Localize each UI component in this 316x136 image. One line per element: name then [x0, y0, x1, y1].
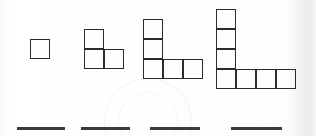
figure-3-grid — [143, 19, 203, 79]
unit-square — [216, 69, 236, 89]
unit-square — [236, 69, 256, 89]
figure-1-grid — [30, 39, 50, 59]
unit-square — [143, 59, 163, 79]
answer-line-3[interactable] — [150, 127, 200, 130]
unit-square — [216, 49, 236, 69]
unit-square — [216, 9, 236, 29]
unit-square — [276, 69, 296, 89]
unit-square — [256, 69, 276, 89]
unit-square — [84, 29, 104, 49]
figure-4 — [216, 9, 296, 89]
unit-square — [30, 39, 50, 59]
unit-square — [163, 59, 183, 79]
answer-line-4[interactable] — [231, 127, 282, 130]
answer-line-1[interactable] — [17, 127, 65, 130]
figure-1 — [30, 39, 50, 59]
unit-square — [143, 19, 163, 39]
unit-square — [216, 29, 236, 49]
worksheet-page — [0, 0, 316, 136]
answer-line-2[interactable] — [81, 127, 130, 130]
unit-square — [143, 39, 163, 59]
figure-4-grid — [216, 9, 296, 89]
unit-square — [183, 59, 203, 79]
unit-square — [84, 49, 104, 69]
figure-3 — [143, 19, 203, 79]
unit-square — [104, 49, 124, 69]
figure-2-grid — [84, 29, 124, 69]
figure-2 — [84, 29, 124, 69]
